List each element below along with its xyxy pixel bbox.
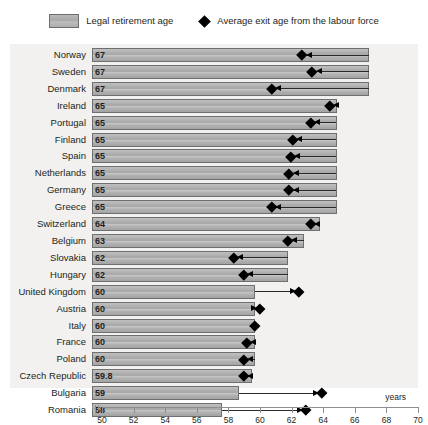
axis-tick — [260, 407, 261, 413]
bar-value-label: 60 — [95, 285, 105, 299]
country-label: Netherlands — [10, 166, 86, 180]
connector-line — [296, 156, 337, 157]
axis-tick — [102, 407, 103, 413]
connector-line — [307, 55, 369, 56]
bar-value-label: 62 — [95, 268, 105, 282]
country-label: Germany — [10, 183, 86, 197]
bar-track: 62 — [92, 251, 418, 265]
table-row: Slovakia62 — [10, 251, 418, 265]
country-label: Spain — [10, 149, 86, 163]
bar-value-label: 65 — [95, 149, 105, 163]
table-row: Sweden67 — [10, 65, 418, 79]
connector-line — [276, 88, 369, 89]
bar-track: 65 — [92, 183, 418, 197]
bar-value-label: 65 — [95, 116, 105, 130]
table-row: Greece65 — [10, 200, 418, 214]
country-label: Sweden — [10, 65, 86, 79]
axis-tick-label: 60 — [255, 415, 264, 425]
retirement-age-bar — [92, 335, 255, 349]
connector-line — [297, 139, 336, 140]
bar-track: 65 — [92, 149, 418, 163]
bar-track: 60 — [92, 285, 418, 299]
country-label: Portugal — [10, 116, 86, 130]
bar-track: 64 — [92, 217, 418, 231]
country-label: Slovakia — [10, 251, 86, 265]
axis-tick-label: 50 — [97, 415, 106, 425]
bar-track: 63 — [92, 234, 418, 248]
connector-line — [294, 173, 336, 174]
country-label: Austria — [10, 302, 86, 316]
table-row: United Kingdom60 — [10, 285, 418, 299]
bar-rows: Norway67Sweden67Denmark67Ireland65Portug… — [10, 48, 418, 420]
country-label: Czech Republic — [10, 369, 86, 383]
retirement-age-bar — [92, 285, 255, 299]
axis-break-hatch — [92, 405, 101, 410]
legend-swatch-icon — [49, 14, 79, 28]
bar-value-label: 60 — [95, 319, 105, 333]
table-row: Czech Republic59.8 — [10, 369, 418, 383]
axis-tick — [228, 407, 229, 413]
axis-tick — [292, 407, 293, 413]
bar-value-label: 63 — [95, 234, 105, 248]
legend-label-legal-retirement-age: Legal retirement age — [86, 16, 173, 26]
axis-tick — [134, 407, 135, 413]
legend-item-average-exit-age: Average exit age from the labour force — [199, 16, 378, 26]
axis-tick-label: 54 — [160, 415, 169, 425]
table-row: Finland65 — [10, 133, 418, 147]
retirement-age-bar — [92, 369, 252, 383]
connector-line — [294, 190, 336, 191]
diamond-marker-icon — [198, 15, 211, 28]
table-row: Ireland65 — [10, 99, 418, 113]
country-label: Bulgaria — [10, 386, 86, 400]
country-label: Denmark — [10, 82, 86, 96]
table-row: Hungary62 — [10, 268, 418, 282]
bar-value-label: 67 — [95, 82, 105, 96]
table-row: Germany65 — [10, 183, 418, 197]
axis-tick — [197, 407, 198, 413]
retirement-age-bar — [92, 234, 304, 248]
bar-value-label: 65 — [95, 183, 105, 197]
axis-tick — [323, 407, 324, 413]
bar-track: 67 — [92, 48, 418, 62]
bar-track: 60 — [92, 335, 418, 349]
table-row: Poland60 — [10, 352, 418, 366]
connector-line — [239, 257, 288, 258]
table-row: Austria60 — [10, 302, 418, 316]
exit-age-marker — [316, 388, 327, 399]
bar-value-label: 62 — [95, 251, 105, 265]
bar-track: 65 — [92, 166, 418, 180]
bar-track: 65 — [92, 99, 418, 113]
bar-track: 59.8 — [92, 369, 418, 383]
retirement-age-bar — [92, 116, 337, 130]
axis-tick-label: 52 — [129, 415, 138, 425]
retirement-age-bar — [92, 302, 255, 316]
bar-value-label: 65 — [95, 133, 105, 147]
bar-value-label: 60 — [95, 352, 105, 366]
table-row: Norway67 — [10, 48, 418, 62]
connector-line — [239, 393, 317, 394]
table-row: Bulgaria59 — [10, 386, 418, 400]
axis-unit-label: years — [385, 392, 406, 402]
retirement-age-bar — [92, 217, 320, 231]
bar-track: 60 — [92, 319, 418, 333]
bar-track: 67 — [92, 65, 418, 79]
country-label: Ireland — [10, 99, 86, 113]
retirement-age-bar — [92, 386, 239, 400]
table-row: Italy60 — [10, 319, 418, 333]
axis-tick-label: 70 — [413, 415, 422, 425]
bar-value-label: 59 — [95, 386, 105, 400]
bar-track: 65 — [92, 200, 418, 214]
axis-tick — [355, 407, 356, 413]
country-label: France — [10, 335, 86, 349]
connector-line — [276, 207, 336, 208]
country-label: Romania — [10, 403, 86, 417]
bar-track: 59 — [92, 386, 418, 400]
bar-track: 65 — [92, 133, 418, 147]
country-label: Switzerland — [10, 217, 86, 231]
connector-line — [255, 291, 294, 292]
connector-line — [317, 71, 369, 72]
bar-track: 60 — [92, 352, 418, 366]
table-row: Switzerland64 — [10, 217, 418, 231]
table-row: Spain65 — [10, 149, 418, 163]
